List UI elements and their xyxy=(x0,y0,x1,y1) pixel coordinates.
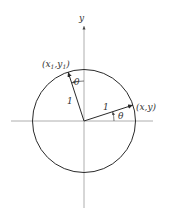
y-axis-label: y xyxy=(78,13,85,23)
point-x1y1-open: (x xyxy=(42,59,51,69)
vector-x1y1-length-label: 1 xyxy=(67,96,73,106)
unit-circle-diagram: y 1 (x,y) θ 1 (x1,y1) θ xyxy=(0,0,169,221)
point-x1y1-close: ) xyxy=(65,59,70,69)
theta-label-x: θ xyxy=(118,111,124,121)
point-x1y1-label: (x1,y1) xyxy=(42,59,70,70)
theta-label-y: θ xyxy=(74,77,80,87)
vector-xy-length-label: 1 xyxy=(103,102,109,112)
angle-arc-x xyxy=(113,112,114,121)
point-xy-label: (x,y) xyxy=(136,102,157,112)
